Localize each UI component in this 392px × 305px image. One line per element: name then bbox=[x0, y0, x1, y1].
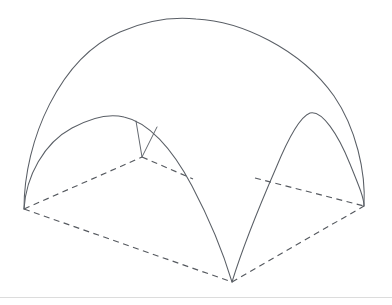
figure-root: Isometric line drawing of a four-point a… bbox=[0, 0, 392, 305]
canopy-dome-diagram: Isometric line drawing of a four-point a… bbox=[0, 0, 392, 305]
figure-background bbox=[0, 0, 392, 305]
